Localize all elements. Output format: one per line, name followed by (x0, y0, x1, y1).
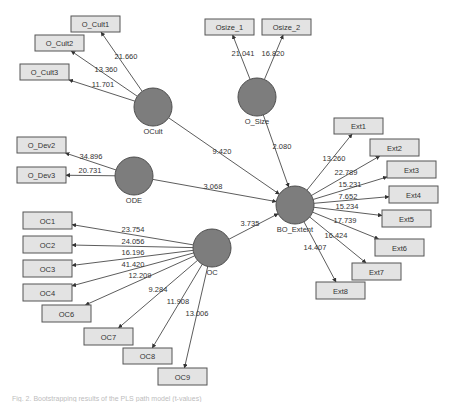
indicator-Osize_1[interactable]: Osize_1 (205, 19, 254, 35)
indicator-Ext3[interactable]: Ext3 (387, 161, 436, 178)
indicator-label: Ext5 (399, 215, 414, 224)
path-coefficient-OC: 3.735 (241, 219, 260, 228)
path-coefficient-ODE: 3.068 (204, 182, 223, 191)
indicator-label: Ext4 (406, 191, 421, 200)
loading-value-Osize_1: 21.041 (232, 49, 255, 58)
construct-circle[interactable] (193, 229, 231, 267)
indicator-label: OC9 (175, 373, 190, 382)
loading-value-O_Cult1: 21.660 (115, 52, 138, 61)
loading-value-OC1: 23.754 (122, 225, 145, 234)
loading-value-Osize_2: 16.820 (262, 49, 285, 58)
indicator-Ext5[interactable]: Ext5 (382, 210, 431, 227)
indicator-label: OC3 (40, 265, 55, 274)
path-coefficient-OCult: 9.420 (213, 147, 232, 156)
indicator-O_Cult2[interactable]: O_Cult2 (35, 35, 84, 51)
indicator-label: OC6 (59, 310, 74, 319)
indicator-OC4[interactable]: OC4 (23, 284, 72, 301)
indicators-layer: O_Cult1O_Cult2O_Cult3Osize_1Osize_2O_Dev… (17, 16, 438, 385)
indicator-label: Ext2 (387, 144, 402, 153)
indicator-O_Cult3[interactable]: O_Cult3 (20, 64, 69, 80)
indicator-label: O_Cult3 (31, 68, 59, 77)
construct-ODE[interactable]: ODE (115, 157, 153, 205)
indicator-OC3[interactable]: OC3 (23, 260, 72, 277)
construct-label: OCult (143, 127, 163, 136)
indicator-Ext6[interactable]: Ext6 (375, 239, 424, 256)
indicator-OC7[interactable]: OC7 (84, 328, 133, 345)
indicator-label: OC4 (40, 289, 55, 298)
loading-value-O_Cult3: 11.701 (92, 80, 114, 89)
indicator-label: Ext1 (351, 122, 366, 131)
construct-label: OC (206, 268, 218, 277)
indicator-OC8[interactable]: OC8 (123, 348, 172, 364)
loading-value-OC8: 11.908 (167, 297, 189, 306)
construct-circle[interactable] (115, 157, 153, 195)
indicator-Ext2[interactable]: Ext2 (370, 139, 419, 156)
loading-value-Ext1: 13.260 (323, 154, 346, 163)
construct-circle[interactable] (134, 88, 172, 126)
loading-value-Ext3: 15.231 (339, 180, 362, 189)
loading-value-O_Dev3: 20.731 (79, 166, 102, 175)
construct-BO_Extent[interactable]: BO_Extent (276, 186, 314, 234)
indicator-label: OC1 (40, 217, 55, 226)
construct-label: BO_Extent (277, 225, 314, 234)
loading-value-OC4: 41.420 (122, 260, 145, 269)
indicator-label: Ext3 (404, 166, 419, 175)
figure-caption: Fig. 2. Bootstrapping results of the PLS… (12, 395, 202, 402)
indicator-label: Osize_1 (216, 23, 244, 32)
path-OCult-to-BO_Extent (169, 118, 280, 194)
indicator-label: OC7 (101, 333, 116, 342)
construct-label: ODE (126, 196, 142, 205)
loading-value-Ext7: 16.424 (325, 231, 348, 240)
indicator-label: OC8 (140, 352, 155, 361)
loading-value-OC6: 12.209 (129, 271, 152, 280)
construct-O_Size[interactable]: O_Size (238, 78, 276, 126)
indicator-label: OC2 (40, 241, 55, 250)
loading-value-OC3: 16.196 (122, 248, 145, 257)
construct-circle[interactable] (238, 78, 276, 116)
loading-value-Ext6: 17.739 (334, 216, 357, 225)
indicator-label: O_Dev2 (28, 141, 56, 150)
indicator-label: Ext6 (392, 244, 407, 253)
indicator-OC2[interactable]: OC2 (23, 236, 72, 253)
loading-value-Ext4: 7.652 (339, 192, 358, 201)
construct-OCult[interactable]: OCult (134, 88, 172, 136)
indicator-label: Ext8 (333, 287, 348, 296)
indicator-label: Ext7 (369, 268, 384, 277)
indicator-O_Dev3[interactable]: O_Dev3 (17, 167, 66, 183)
indicator-OC6[interactable]: OC6 (42, 305, 91, 322)
loading-value-OC9: 13.006 (186, 309, 209, 318)
indicator-Ext4[interactable]: Ext4 (389, 186, 438, 203)
loading-value-Ext5: 15.234 (336, 202, 359, 211)
indicator-label: Osize_2 (273, 23, 301, 32)
loading-value-Ext2: 22.789 (335, 168, 358, 177)
indicator-OC9[interactable]: OC9 (158, 368, 207, 385)
path-coefficient-O_Size: 2.080 (273, 142, 292, 151)
indicator-Osize_2[interactable]: Osize_2 (262, 19, 311, 35)
construct-label: O_Size (245, 117, 270, 126)
indicator-O_Dev2[interactable]: O_Dev2 (17, 137, 66, 153)
indicator-Ext1[interactable]: Ext1 (334, 118, 383, 134)
loading-value-O_Dev2: 34.896 (80, 152, 103, 161)
indicator-label: O_Cult2 (46, 39, 74, 48)
loading-value-OC2: 24.056 (122, 237, 145, 246)
loading-value-O_Cult2: 13.360 (95, 65, 118, 74)
indicator-label: O_Dev3 (28, 171, 56, 180)
loading-path-OC8 (152, 264, 202, 348)
indicator-OC1[interactable]: OC1 (23, 212, 72, 229)
loading-value-Ext8: 14.407 (304, 243, 327, 252)
loading-path-O_Dev3 (66, 175, 115, 176)
indicator-O_Cult1[interactable]: O_Cult1 (71, 16, 120, 32)
indicator-Ext8[interactable]: Ext8 (316, 282, 365, 299)
indicator-label: O_Cult1 (82, 20, 110, 29)
construct-circle[interactable] (276, 186, 314, 224)
constructs-layer: OCultO_SizeODEOCBO_Extent (115, 78, 314, 277)
loading-value-OC7: 9.284 (149, 285, 168, 294)
indicator-Ext7[interactable]: Ext7 (352, 263, 401, 280)
